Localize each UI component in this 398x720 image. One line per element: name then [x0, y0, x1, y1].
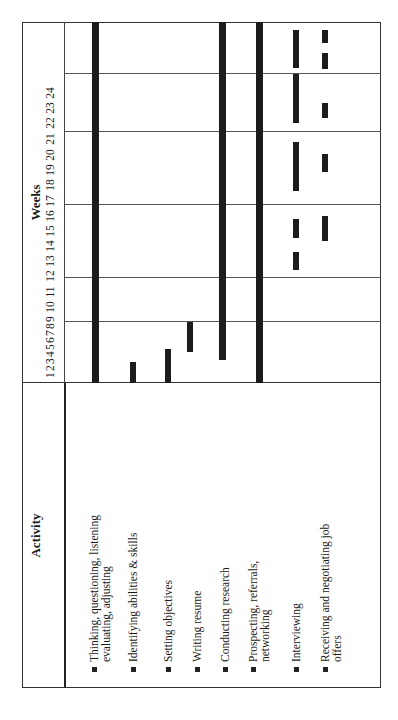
bullet-icon — [323, 667, 328, 672]
bar-interviewing-seg — [293, 252, 299, 270]
bar-prospecting — [256, 22, 263, 383]
week-tick: 9 — [44, 316, 56, 322]
week-tick: 15 — [44, 225, 56, 237]
activity-label: Prospecting, referrals, networking — [247, 542, 271, 662]
bullet-icon — [223, 667, 228, 672]
week-tick: 20 — [44, 149, 56, 161]
bullet-icon — [294, 667, 299, 672]
activity-item: Receiving and negotiating job offers — [319, 383, 343, 688]
bar-interviewing-seg — [293, 74, 299, 123]
week-tick: 5 — [44, 344, 56, 350]
week-tick: 14 — [44, 240, 56, 252]
bullet-icon — [131, 667, 136, 672]
bar-identifying — [130, 362, 136, 383]
activity-label: Identifying abilities & skills — [127, 533, 139, 662]
bar-setting-objectives — [165, 349, 171, 383]
week-tick: 21 — [44, 133, 56, 145]
bar-conducting-research — [219, 22, 226, 360]
activity-label: Receiving and negotiating job offers — [319, 522, 343, 662]
activity-item: Setting objectives — [162, 383, 174, 688]
bar-receiving-offers-seg — [322, 154, 328, 172]
activity-item: Thinking, questioning, listening evaluat… — [88, 383, 112, 688]
bar-interviewing-seg — [293, 142, 299, 191]
bullet-icon — [195, 667, 200, 672]
bullet-icon — [92, 667, 97, 672]
activity-item: Interviewing — [290, 383, 302, 688]
week-tick: 18 — [44, 179, 56, 191]
activity-label: Conducting research — [219, 567, 231, 662]
activity-item: Identifying abilities & skills — [127, 383, 139, 688]
bullet-icon — [166, 667, 171, 672]
week-tick: 22 — [44, 117, 56, 129]
week-tick: 17 — [44, 195, 56, 207]
bar-receiving-offers-seg — [322, 53, 328, 69]
week-tick: 13 — [44, 255, 56, 267]
week-tick: 6 — [44, 337, 56, 343]
week-tick: 7 — [44, 330, 56, 336]
week-tick: 23 — [44, 102, 56, 114]
week-tick: 10 — [44, 301, 56, 313]
rotated-gantt-page: Activity Weeks 1 2 3 4 5 6 7 8 9 10 11 1… — [22, 22, 381, 688]
activity-label: Writing resume — [191, 591, 203, 662]
weeks-heading: Weeks — [28, 22, 44, 383]
activity-heading: Activity — [28, 383, 44, 688]
activity-item: Writing resume — [191, 383, 203, 688]
bar-receiving-offers-seg — [322, 103, 328, 118]
week-tick: 8 — [44, 323, 56, 329]
bar-thinking — [92, 22, 99, 383]
activity-header-divider — [64, 383, 66, 688]
activity-label: Setting objectives — [162, 580, 174, 662]
week-tick: 11 — [44, 286, 56, 297]
bullet-icon — [251, 667, 256, 672]
activity-label: Thinking, questioning, listening evaluat… — [88, 502, 112, 662]
bar-interviewing-seg — [293, 30, 299, 68]
week-tick: 3 — [44, 358, 56, 364]
bar-receiving-offers-seg — [322, 216, 328, 241]
week-tick: 1 — [44, 372, 56, 378]
bar-interviewing-seg — [293, 219, 299, 238]
weeks-header-divider — [64, 22, 65, 383]
week-tick: 24 — [44, 87, 56, 99]
activity-label: Interviewing — [290, 603, 302, 662]
week-tick: 16 — [44, 210, 56, 222]
week-tick: 19 — [44, 164, 56, 176]
week-tick: 4 — [44, 351, 56, 357]
bar-writing-resume — [187, 322, 193, 352]
bar-receiving-offers-seg — [322, 30, 328, 43]
week-tick: 12 — [44, 270, 56, 282]
activity-item: Conducting research — [219, 383, 231, 688]
week-tick: 2 — [44, 365, 56, 371]
activity-item: Prospecting, referrals, networking — [247, 383, 271, 688]
